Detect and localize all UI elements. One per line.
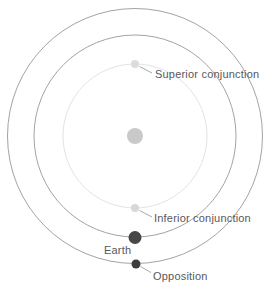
inferior-conjunction-dot — [131, 204, 139, 212]
opposition-leader-line — [141, 267, 152, 273]
superior-conjunction-label: Superior conjunction — [155, 68, 259, 80]
earth-dot — [129, 231, 142, 244]
diagram-svg: Superior conjunction Inferior conjunctio… — [0, 0, 266, 288]
sun-icon — [127, 128, 143, 144]
opposition-dot — [132, 260, 141, 269]
superior-conjunction-dot — [131, 60, 139, 68]
superior-conjunction-leader-line — [140, 67, 153, 74]
orbital-configurations-diagram: Superior conjunction Inferior conjunctio… — [0, 0, 266, 288]
inferior-conjunction-leader-line — [140, 211, 153, 218]
inferior-conjunction-label: Inferior conjunction — [154, 212, 251, 224]
opposition-label: Opposition — [153, 270, 208, 282]
earth-label: Earth — [104, 244, 131, 256]
earth-marker: Earth — [104, 231, 142, 256]
